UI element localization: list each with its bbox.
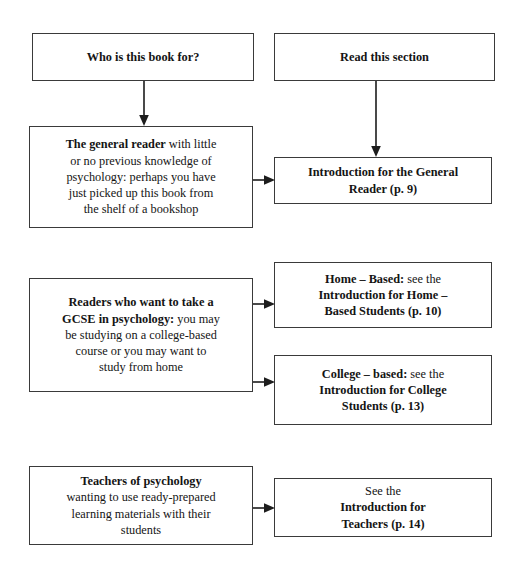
emphasis-text: Introduction for Home – <box>318 288 447 302</box>
emphasis-text: Teachers of psychology <box>80 474 201 488</box>
box-audience-general-reader[interactable]: The general reader with littleor no prev… <box>29 126 253 228</box>
emphasis-text: Based Students (p. 10) <box>325 304 442 318</box>
box-audience-general-reader-text: The general reader with littleor no prev… <box>36 136 246 217</box>
connector-general-reader-to-target <box>253 172 276 188</box>
emphasis-text: Readers who want to take a <box>68 295 213 309</box>
box-header-left[interactable]: Who is this book for? <box>32 33 254 81</box>
emphasis-text: Introduction for the General <box>308 165 458 179</box>
box-target-college-based-text: College – based: see theIntroduction for… <box>281 366 485 415</box>
connector-header-left-to-general-reader <box>136 81 152 128</box>
box-target-general-reader[interactable]: Introduction for the GeneralReader (p. 9… <box>274 157 492 204</box>
box-audience-teachers-text: Teachers of psychologywanting to use rea… <box>36 473 246 538</box>
connector-gcse-to-home-based <box>253 296 276 312</box>
emphasis-text: GCSE in psychology: <box>62 312 174 326</box>
box-target-college-based[interactable]: College – based: see theIntroduction for… <box>274 355 492 425</box>
emphasis-text: Home – Based: <box>325 272 404 286</box>
box-target-general-reader-text: Introduction for the GeneralReader (p. 9… <box>281 164 485 196</box>
flowchart-canvas: Who is this book for? Read this section … <box>0 0 526 579</box>
emphasis-text: Introduction for College <box>319 383 446 397</box>
box-header-right-label: Read this section <box>281 49 488 65</box>
box-audience-gcse-text: Readers who want to take aGCSE in psycho… <box>36 294 246 375</box>
emphasis-text: Introduction for <box>340 500 426 514</box>
connector-teachers-to-target <box>253 500 276 516</box>
box-target-teachers[interactable]: See the Introduction forTeachers (p. 14) <box>274 478 492 537</box>
box-target-teachers-text: See the Introduction forTeachers (p. 14) <box>281 483 485 532</box>
box-target-home-based[interactable]: Home – Based: see theIntroduction for Ho… <box>274 262 492 328</box>
emphasis-text: College – based: <box>322 367 407 381</box>
box-audience-teachers[interactable]: Teachers of psychologywanting to use rea… <box>29 466 253 545</box>
connector-gcse-to-college-based <box>253 374 276 390</box>
emphasis-text: Reader (p. 9) <box>349 182 417 196</box>
emphasis-text: Teachers (p. 14) <box>341 517 424 531</box>
emphasis-text: Students (p. 13) <box>342 399 424 413</box>
box-target-home-based-text: Home – Based: see theIntroduction for Ho… <box>281 271 485 320</box>
connector-header-right-to-general-target <box>368 81 384 159</box>
emphasis-text: The general reader <box>66 137 166 151</box>
box-header-right[interactable]: Read this section <box>274 33 495 81</box>
box-audience-gcse[interactable]: Readers who want to take aGCSE in psycho… <box>29 278 253 392</box>
box-header-left-label: Who is this book for? <box>39 49 247 65</box>
